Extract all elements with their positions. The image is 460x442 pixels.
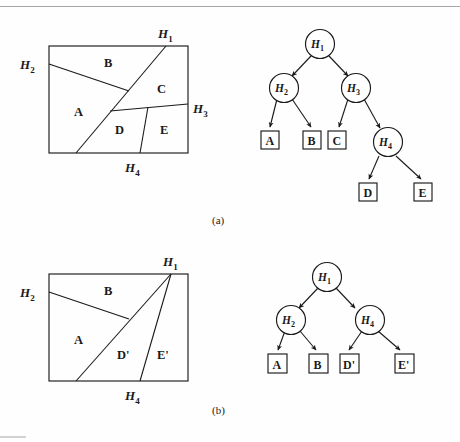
partition-b-label-h4: H4 (124, 388, 140, 406)
partition-a-label-h4: H4 (124, 160, 140, 178)
tree-b-edge-h4-ep (378, 331, 400, 350)
partition-a-region-c: C (157, 82, 166, 96)
partition-b-label-h2: H2 (19, 285, 35, 303)
partition-a-region-e: E (160, 123, 168, 137)
partition-b-region-ep: E' (157, 348, 169, 362)
partition-b-boundary (49, 274, 188, 381)
tree-a-edge-h3-h4 (364, 99, 380, 128)
tree-a-edge-h3-c (339, 99, 348, 127)
figures-canvas: H1 H2 H3 H4 A B C D E (0, 0, 460, 442)
tree-a-leaf-d-label: D (364, 186, 373, 200)
figure-page: H1 H2 H3 H4 A B C D E (0, 0, 460, 442)
tree-b-leaf-b-label: B (314, 358, 322, 372)
partition-a-line-h2 (49, 64, 129, 91)
tree-a-edge-h2-a (270, 99, 277, 127)
tree-a-edge-h4-e (396, 156, 421, 179)
tree-a-leaf-c-label: C (333, 134, 342, 148)
partition-b-region-dp: D' (117, 348, 130, 362)
tree-b-leaf-a-label: A (273, 358, 282, 372)
partition-a-region-d: D (115, 123, 124, 137)
partition-b-line-h2 (49, 292, 129, 319)
tree-a-edge-h1-h2 (292, 56, 311, 76)
bsp-tree-a: H1 H2 H3 H4 A B C D E (261, 30, 432, 202)
partition-a-label-h3: H3 (192, 101, 208, 119)
tree-a-edge-h4-d (369, 156, 379, 179)
partition-b-label-h1: H1 (162, 254, 178, 272)
bsp-partition-a: H1 H2 H3 H4 A B C D E (19, 26, 208, 178)
tree-a-edge-h2-b (292, 99, 311, 127)
caption-a: (a) (212, 214, 225, 227)
partition-a-line-h4 (140, 107, 148, 153)
tree-b-edge-h2-a (278, 331, 285, 350)
tree-b-leaf-dp-label: D' (343, 358, 355, 372)
tree-b-edge-h4-dp (349, 331, 362, 350)
tree-a-edge-h1-h3 (329, 56, 348, 76)
bsp-tree-b: H1 H2 H4 A B D' E' (268, 263, 414, 374)
partition-a-region-b: B (104, 56, 112, 70)
caption-b: (b) (212, 404, 225, 417)
partition-b-line-h1 (76, 274, 171, 381)
partition-a-region-a: A (74, 105, 83, 119)
tree-a-leaf-e-label: E (419, 186, 427, 200)
partition-b-region-a: A (74, 333, 83, 347)
bsp-partition-b: H1 H2 H4 A B D' E' (19, 254, 188, 406)
partition-b-region-b: B (104, 284, 112, 298)
tree-b-edge-h1-h2 (299, 288, 318, 308)
tree-a-leaf-a-label: A (266, 134, 275, 148)
tree-b-edge-h1-h4 (336, 288, 355, 308)
partition-a-label-h1: H1 (157, 26, 173, 44)
tree-a-leaf-b-label: B (308, 134, 316, 148)
partition-b-line-h4 (140, 274, 171, 381)
tree-b-leaf-ep-label: E' (398, 358, 409, 372)
partition-a-label-h2: H2 (19, 57, 35, 75)
tree-b-edge-h2-b (300, 331, 316, 350)
partition-a-line-h3 (110, 104, 188, 111)
